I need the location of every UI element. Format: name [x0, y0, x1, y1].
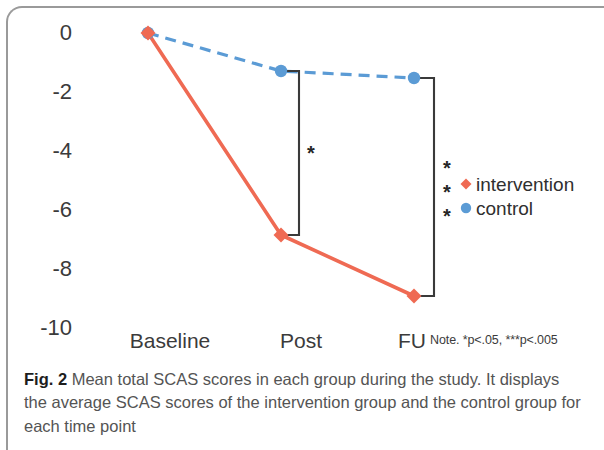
chart-legend: intervention control — [459, 172, 599, 220]
x-tick-label-post: Post — [280, 330, 322, 351]
figure-caption-label: Fig. 2 — [24, 370, 67, 388]
significance-star-post: * — [307, 143, 315, 163]
legend-label-control: control — [476, 199, 533, 218]
figure-caption: Fig. 2 Mean total SCAS scores in each gr… — [24, 368, 584, 438]
x-tick-label-baseline: Baseline — [130, 330, 211, 351]
significance-bracket-post — [281, 71, 299, 235]
legend-label-intervention: intervention — [476, 175, 574, 194]
legend-circle-marker-icon — [459, 201, 473, 215]
significance-star-fu: * — [443, 206, 451, 226]
chart-significance-note: Note. *p<.05, ***p<.005 — [430, 333, 558, 347]
legend-item-intervention[interactable]: intervention — [459, 172, 599, 196]
figure-caption-text: Mean total SCAS scores in each group dur… — [24, 370, 581, 435]
chart-plot-area: 0 -2 -4 -6 -8 -10 * — [0, 0, 601, 358]
significance-bracket-fu — [414, 78, 434, 296]
significance-star-fu: * — [443, 158, 451, 178]
data-point-intervention-fu — [407, 289, 422, 304]
x-tick-label-fu: FU — [398, 330, 426, 351]
significance-star-fu: * — [443, 182, 451, 202]
legend-diamond-marker-icon — [459, 177, 473, 191]
data-point-control-post — [275, 65, 287, 77]
data-point-control-fu — [408, 72, 420, 84]
legend-item-control[interactable]: control — [459, 196, 599, 220]
